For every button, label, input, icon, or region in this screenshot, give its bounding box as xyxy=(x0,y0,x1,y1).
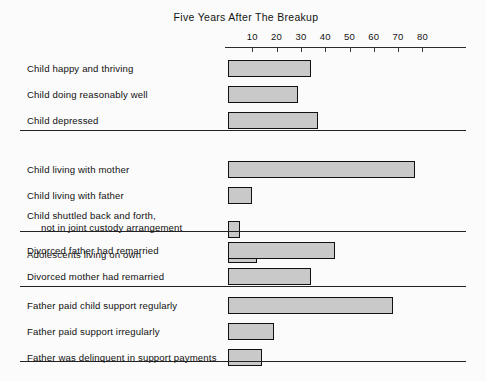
axis-tick-label-40: 40 xyxy=(320,31,331,42)
axis-tick-label-60: 60 xyxy=(368,31,379,42)
group-separator xyxy=(20,286,466,287)
bar-row: Father paid support irregularly xyxy=(0,323,486,340)
axis-tick-60 xyxy=(374,47,375,52)
bar-row-label-line1: Child shuttled back and forth, xyxy=(27,210,156,221)
axis-tick-label-20: 20 xyxy=(271,31,282,42)
bar-row-label: Father paid support irregularly xyxy=(27,326,160,338)
bar-row: Father was delinquent in support payment… xyxy=(0,349,486,366)
bar xyxy=(228,161,415,178)
bar xyxy=(228,349,262,366)
bar-row: Child living with father xyxy=(0,187,486,204)
bar-row: Child living with mother xyxy=(0,161,486,178)
axis-tick-label-10: 10 xyxy=(247,31,258,42)
axis-tick-80 xyxy=(422,47,423,52)
axis-tick-label-50: 50 xyxy=(344,31,355,42)
axis-tick-10 xyxy=(252,47,253,52)
bar-row-label: Child living with mother xyxy=(27,164,129,176)
bar-row-label: Divorced father had remarried xyxy=(27,245,159,257)
bar-row-label: Divorced mother had remarried xyxy=(27,271,164,283)
bar xyxy=(228,112,318,129)
axis-tick-40 xyxy=(325,47,326,52)
bar-row: Divorced mother had remarried xyxy=(0,268,486,285)
group-separator xyxy=(20,231,466,232)
bar-row: Child doing reasonably well xyxy=(0,86,486,103)
axis-tick-label-70: 70 xyxy=(393,31,404,42)
axis-tick-30 xyxy=(301,47,302,52)
chart-root: Five Years After The Breakup 10203040506… xyxy=(0,0,486,381)
bar-row: Child depressed xyxy=(0,112,486,129)
bar-row-label-line2: not in joint custody arrangement xyxy=(27,222,182,234)
axis-tick-20 xyxy=(277,47,278,52)
axis-tick-label-30: 30 xyxy=(295,31,306,42)
group-separator xyxy=(20,361,466,362)
bar xyxy=(228,86,298,103)
bar xyxy=(228,323,274,340)
group-separator xyxy=(20,130,466,131)
axis-line xyxy=(225,47,466,48)
axis-tick-50 xyxy=(350,47,351,52)
bar-row-label: Child doing reasonably well xyxy=(27,89,148,101)
axis-tick-label-80: 80 xyxy=(417,31,428,42)
axis-tick-70 xyxy=(398,47,399,52)
bar xyxy=(228,221,240,238)
bar xyxy=(228,268,311,285)
bar xyxy=(228,187,252,204)
bar-row: Father paid child support regularly xyxy=(0,297,486,314)
bar xyxy=(228,242,335,259)
bar-row-label: Child depressed xyxy=(27,115,99,127)
bar-row: Child shuttled back and forth,not in joi… xyxy=(0,213,486,230)
bar-row: Child happy and thriving xyxy=(0,60,486,77)
bar-row: Divorced father had remarried xyxy=(0,242,486,259)
bar-row-label: Father paid child support regularly xyxy=(27,300,177,312)
bar xyxy=(228,297,393,314)
bar-row-label: Child living with father xyxy=(27,190,124,202)
bar-row-label: Father was delinquent in support payment… xyxy=(27,352,217,364)
bar-row-label: Child happy and thriving xyxy=(27,63,134,75)
bar xyxy=(228,60,311,77)
